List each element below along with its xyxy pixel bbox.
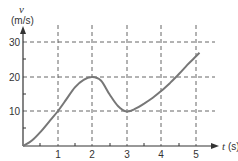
- x-tick-3: 3: [124, 149, 130, 160]
- y-tick-30: 30: [9, 37, 21, 48]
- x-tick-1: 1: [55, 149, 61, 160]
- y-var-label: v: [19, 3, 24, 15]
- x-axis-arrow-icon: [211, 143, 219, 149]
- x-var-label: t: [222, 140, 226, 152]
- x-axis-label: t (s): [222, 140, 238, 152]
- x-tick-labels: 1 2 3 4 5: [55, 149, 199, 160]
- velocity-time-chart: v (m/s) t (s) 10 20 30 1 2 3 4 5: [0, 0, 238, 161]
- gridlines: [23, 25, 215, 146]
- x-tick-2: 2: [89, 149, 95, 160]
- y-axis-arrow-icon: [20, 26, 26, 34]
- y-axis-label: v (m/s): [11, 3, 34, 26]
- x-tick-4: 4: [158, 149, 164, 160]
- x-tick-5: 5: [193, 149, 199, 160]
- x-unit-label: (s): [228, 141, 238, 152]
- y-tick-labels: 10 20 30: [9, 37, 21, 117]
- y-unit-label: (m/s): [11, 15, 34, 26]
- y-tick-10: 10: [9, 106, 21, 117]
- y-tick-20: 20: [9, 72, 21, 83]
- velocity-curve: [23, 53, 200, 146]
- minor-ticks: [23, 59, 179, 146]
- axes: [20, 26, 219, 149]
